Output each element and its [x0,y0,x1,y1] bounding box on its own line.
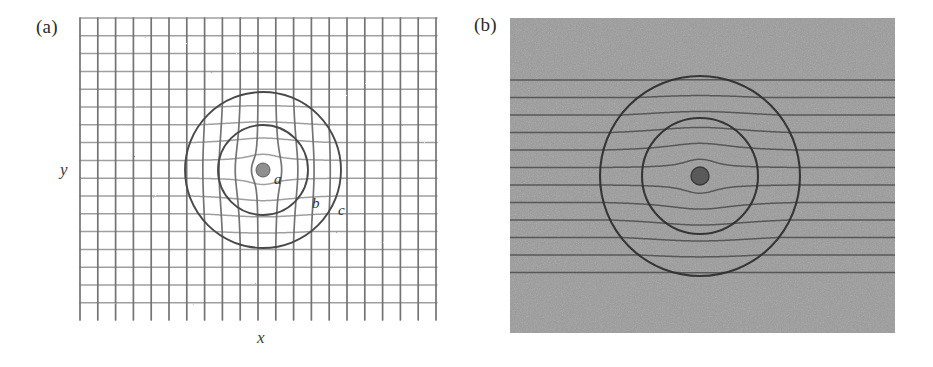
radius-label-b: b [312,195,320,211]
axis-label-x: x [257,328,265,348]
panel-a: (a) y x abc [0,0,466,367]
panel-b-canvas [466,0,933,367]
panel-b: (b) [466,0,933,367]
panel-a-canvas: abc [0,0,466,367]
figure-root: (a) y x abc (b) [0,0,933,367]
panel-b-label: (b) [474,14,497,36]
axis-label-y: y [60,160,68,180]
radius-label-a: a [274,171,282,187]
photo-core-dot [691,167,709,185]
panel-a-label: (a) [36,16,58,38]
cloak-core-dot [256,163,270,177]
radius-label-c: c [338,202,345,218]
